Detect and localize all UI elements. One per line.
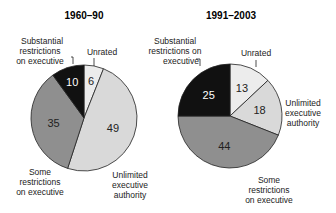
slice-value-label: 44 bbox=[218, 140, 230, 152]
label-substantial-line2: restrictions bbox=[19, 46, 60, 56]
label-unlimited-line1: Unlimited bbox=[112, 170, 148, 180]
label-some-line1: Some bbox=[29, 167, 51, 177]
label-some-line2: restrictions bbox=[248, 185, 289, 195]
slice-value-label: 6 bbox=[88, 75, 94, 87]
label-substantial-line1: Substantial bbox=[154, 36, 196, 46]
pie-charts: 1960–90 6493510 Substantial restrictions… bbox=[0, 0, 336, 213]
leader-line bbox=[71, 57, 73, 64]
pie-chart-1960-90: 1960–90 6493510 Substantial restrictions… bbox=[16, 10, 148, 200]
label-some-line2: restrictions bbox=[19, 177, 60, 187]
slice-value-label: 18 bbox=[254, 104, 266, 116]
slice-value-label: 35 bbox=[48, 117, 60, 129]
label-unlimited-line2: executive bbox=[285, 108, 321, 118]
label-substantial-line3: on executive bbox=[16, 56, 64, 66]
pie-chart-1991-2003: 1991–2003 13184425 Substantial restricti… bbox=[149, 10, 322, 205]
label-substantial-line3: executive bbox=[163, 56, 199, 66]
chart-title: 1991–2003 bbox=[206, 10, 256, 21]
label-substantial-line2: restrictions on bbox=[149, 46, 202, 56]
label-unrated: Unrated bbox=[241, 48, 272, 58]
label-some-line3: on executive bbox=[16, 187, 64, 197]
label-some-line3: on executive bbox=[245, 195, 293, 205]
slice-value-label: 49 bbox=[107, 122, 119, 134]
label-some-line1: Some bbox=[258, 175, 280, 185]
label-unlimited-line3: authority bbox=[287, 118, 320, 128]
slice-value-label: 13 bbox=[236, 82, 248, 94]
label-substantial-line1: Substantial bbox=[21, 36, 63, 46]
label-unrated: Unrated bbox=[87, 47, 118, 57]
pie: 6493510 bbox=[31, 65, 137, 171]
chart-title: 1960–90 bbox=[65, 10, 104, 21]
slice-value-label: 25 bbox=[203, 89, 215, 101]
slice-value-label: 10 bbox=[66, 76, 78, 88]
label-unlimited-line3: authority bbox=[114, 190, 147, 200]
label-unlimited-line1: Unlimited bbox=[285, 98, 321, 108]
pie: 13184425 bbox=[178, 64, 282, 168]
label-unlimited-line2: executive bbox=[112, 180, 148, 190]
